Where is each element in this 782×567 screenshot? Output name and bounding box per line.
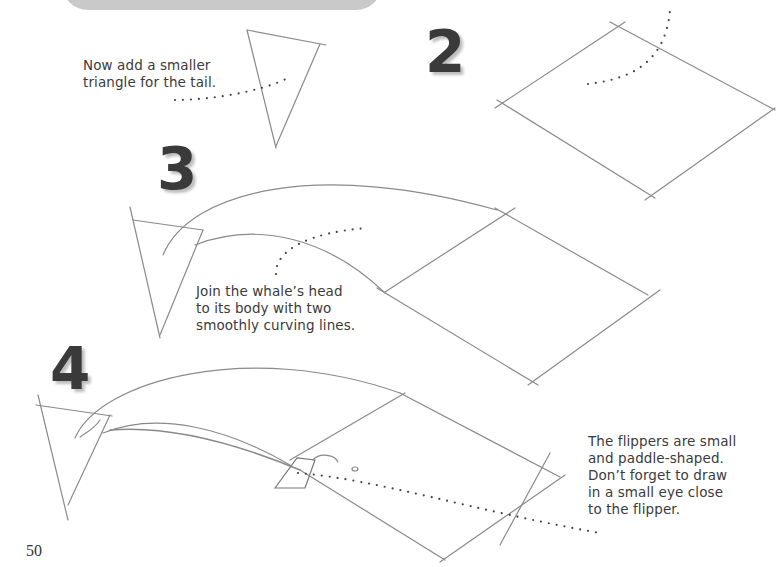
tail-triangle-sketch bbox=[247, 30, 326, 148]
caption-line: Now add a smaller bbox=[83, 57, 216, 74]
caption-line: to its body with two bbox=[196, 300, 355, 317]
step4-sketch bbox=[36, 368, 565, 562]
step-number-2: 2 bbox=[425, 23, 465, 81]
caption-line: Don’t forget to draw bbox=[588, 467, 736, 484]
page-number: 50 bbox=[26, 542, 42, 560]
caption-line: smoothly curving lines. bbox=[196, 317, 355, 334]
step-number-4: 4 bbox=[50, 340, 90, 398]
caption-line: The flippers are small bbox=[588, 433, 736, 450]
step4-caption: The flippers are small and paddle-shaped… bbox=[588, 433, 736, 518]
caption-line: Join the whale’s head bbox=[196, 283, 355, 300]
step2-body-rectangle bbox=[495, 22, 775, 200]
caption-line: triangle for the tail. bbox=[83, 74, 216, 91]
step-number-3: 3 bbox=[157, 140, 197, 198]
step3-caption: Join the whale’s head to its body with t… bbox=[196, 283, 355, 334]
caption-line: and paddle-shaped. bbox=[588, 450, 736, 467]
tail-caption: Now add a smaller triangle for the tail. bbox=[83, 57, 216, 91]
caption-line: to the flipper. bbox=[588, 501, 736, 518]
caption-line: in a small eye close bbox=[588, 484, 736, 501]
